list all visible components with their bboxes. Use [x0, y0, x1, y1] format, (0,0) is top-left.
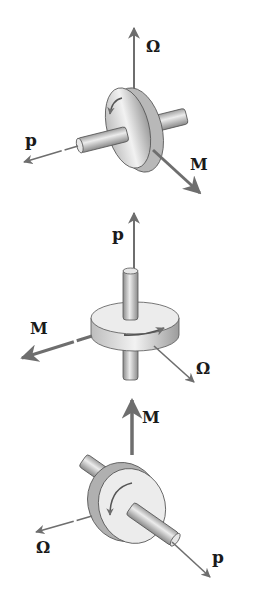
omega-arrow — [36, 516, 92, 532]
gyroscope-diagram: Ω p M p — [0, 0, 256, 591]
p-arrow — [172, 542, 210, 577]
p-label: p — [112, 224, 124, 244]
gyro-3: M Ω p — [36, 400, 224, 577]
M-label: M — [190, 155, 208, 174]
shaft-top — [123, 270, 138, 320]
gyro-2: p M Ω — [22, 213, 210, 382]
M-arrow — [22, 336, 92, 358]
p-label: p — [25, 130, 37, 150]
omega-label: Ω — [146, 37, 160, 56]
omega-label: Ω — [196, 359, 210, 378]
p-label: p — [212, 547, 224, 567]
gyro-1: Ω p M — [24, 28, 208, 193]
M-label: M — [142, 408, 160, 427]
M-label: M — [30, 319, 48, 338]
omega-label: Ω — [36, 538, 50, 557]
omega-arrow — [154, 346, 194, 382]
